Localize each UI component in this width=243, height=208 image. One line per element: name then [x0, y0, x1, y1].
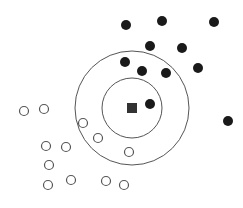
hollow-point: [62, 143, 71, 152]
hollow-point: [45, 161, 54, 170]
query-point-square: [127, 103, 137, 113]
filled-point: [145, 41, 155, 51]
filled-point: [177, 43, 187, 53]
hollow-point: [120, 181, 129, 190]
hollow-point: [102, 177, 111, 186]
filled-point: [137, 66, 147, 76]
query-point-group: [127, 103, 137, 113]
filled-point: [223, 116, 233, 126]
hollow-point: [125, 148, 134, 157]
filled-point: [120, 57, 130, 67]
knn-diagram: [0, 0, 243, 208]
hollow-point: [40, 105, 49, 114]
hollow-points-group: [20, 105, 134, 190]
hollow-point: [44, 181, 53, 190]
hollow-point: [42, 142, 51, 151]
hollow-point: [20, 107, 29, 116]
filled-point: [121, 20, 131, 30]
filled-point: [161, 68, 171, 78]
hollow-point: [79, 119, 88, 128]
filled-point: [157, 16, 167, 26]
filled-point: [193, 63, 203, 73]
filled-point: [209, 17, 219, 27]
filled-point: [145, 99, 155, 109]
hollow-point: [94, 134, 103, 143]
hollow-point: [67, 176, 76, 185]
